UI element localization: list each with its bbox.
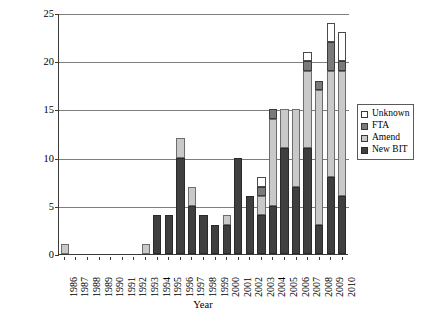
- bar-segment-amend: [303, 71, 311, 148]
- x-tick-slot: 1988: [81, 257, 93, 301]
- chart-figure: 0510152025 Number of Renegotiated BITs 1…: [0, 0, 439, 317]
- bar-segment-newbit: [327, 177, 335, 254]
- stacked-bar[interactable]: [199, 215, 207, 254]
- bar-slot: [140, 14, 152, 254]
- legend-swatch-fta-icon: [361, 123, 368, 130]
- x-tick-slot: 1997: [186, 257, 198, 301]
- x-tick-slot: 1991: [116, 257, 128, 301]
- bar-segment-fta: [257, 187, 265, 197]
- chart-legend: UnknownFTAAmendNew BIT: [357, 104, 414, 160]
- stacked-bar[interactable]: [303, 52, 311, 254]
- x-tick-mark: [296, 257, 297, 260]
- x-tick-slot: 2004: [267, 257, 279, 301]
- y-tick-mark: [55, 255, 59, 256]
- bar-segment-newbit: [292, 187, 300, 254]
- legend-item-unknown[interactable]: Unknown: [361, 108, 409, 120]
- bar-segment-unknown: [303, 52, 311, 62]
- x-tick-slot: 1999: [209, 257, 221, 301]
- legend-swatch-newbit-icon: [361, 147, 368, 154]
- bar-segment-newbit: [257, 215, 265, 254]
- bar-slot: [82, 14, 94, 254]
- bar-segment-newbit: [303, 148, 311, 254]
- legend-item-amend[interactable]: Amend: [361, 132, 409, 144]
- bar-segment-newbit: [188, 206, 196, 254]
- bar-slot: [175, 14, 187, 254]
- stacked-bar[interactable]: [188, 187, 196, 254]
- x-tick-mark: [226, 257, 227, 260]
- x-axis-tick-labels: 1986198719881989199019911992199319941995…: [58, 257, 348, 301]
- x-tick-slot: 2001: [232, 257, 244, 301]
- bar-slot: [59, 14, 71, 254]
- bar-slot: [163, 14, 175, 254]
- bar-slot: [186, 14, 198, 254]
- x-tick-slot: 2008: [313, 257, 325, 301]
- legend-label: Unknown: [372, 109, 409, 119]
- stacked-bar[interactable]: [269, 109, 277, 254]
- bar-segment-newbit: [153, 215, 161, 254]
- x-tick-mark: [145, 257, 146, 260]
- x-tick-slot: 2005: [278, 257, 290, 301]
- bar-segment-amend: [269, 119, 277, 206]
- y-tick-label: 5: [6, 202, 54, 213]
- stacked-bar[interactable]: [327, 23, 335, 254]
- legend-label: Amend: [372, 133, 400, 143]
- bar-segment-amend: [188, 187, 196, 206]
- x-tick-mark: [168, 257, 169, 260]
- x-tick-mark: [180, 257, 181, 260]
- y-tick-label: 25: [6, 9, 54, 20]
- bar-segment-newbit: [176, 158, 184, 254]
- legend-item-newbit[interactable]: New BIT: [361, 144, 409, 156]
- bar-segment-amend: [257, 196, 265, 215]
- stacked-bar[interactable]: [280, 109, 288, 254]
- bar-segment-amend: [223, 215, 231, 225]
- x-tick-slot: 1994: [151, 257, 163, 301]
- x-tick-slot: 2003: [255, 257, 267, 301]
- stacked-bar[interactable]: [176, 138, 184, 254]
- bar-segment-amend: [292, 109, 300, 186]
- bar-segment-newbit: [246, 196, 254, 254]
- stacked-bar[interactable]: [165, 215, 173, 254]
- x-tick-mark: [215, 257, 216, 260]
- bar-segment-newbit: [199, 215, 207, 254]
- bar-segment-amend: [315, 90, 323, 225]
- bar-slot: [244, 14, 256, 254]
- bar-segment-newbit: [234, 158, 242, 254]
- bar-segment-fta: [303, 61, 311, 71]
- x-tick-label: 2010: [346, 277, 357, 297]
- bar-segment-fta: [327, 42, 335, 71]
- stacked-bar[interactable]: [223, 215, 231, 254]
- stacked-bar[interactable]: [142, 244, 150, 254]
- x-tick-slot: 1986: [58, 257, 70, 301]
- bar-slot: [128, 14, 140, 254]
- stacked-bar[interactable]: [292, 109, 300, 254]
- x-tick-mark: [203, 257, 204, 260]
- y-tick-label: 10: [6, 153, 54, 164]
- x-tick-slot: 1992: [128, 257, 140, 301]
- legend-label: FTA: [372, 121, 389, 131]
- stacked-bar[interactable]: [257, 177, 265, 254]
- bar-segment-amend: [327, 71, 335, 177]
- bar-slot: [152, 14, 164, 254]
- bar-segment-amend: [142, 244, 150, 254]
- bar-segment-fta: [338, 61, 346, 71]
- stacked-bar[interactable]: [153, 215, 161, 254]
- legend-label: New BIT: [372, 145, 408, 155]
- stacked-bar[interactable]: [315, 81, 323, 254]
- bar-segment-newbit: [338, 196, 346, 254]
- x-tick-mark: [330, 257, 331, 260]
- x-tick-slot: 2006: [290, 257, 302, 301]
- bar-slot: [105, 14, 117, 254]
- x-tick-mark: [272, 257, 273, 260]
- x-tick-slot: 1996: [174, 257, 186, 301]
- stacked-bar[interactable]: [61, 244, 69, 254]
- bar-slot: [94, 14, 106, 254]
- legend-item-fta[interactable]: FTA: [361, 120, 409, 132]
- stacked-bar[interactable]: [234, 158, 242, 254]
- x-tick-mark: [133, 257, 134, 260]
- y-tick-label: 15: [6, 105, 54, 116]
- stacked-bar[interactable]: [211, 225, 219, 254]
- x-tick-mark: [157, 257, 158, 260]
- stacked-bar[interactable]: [338, 32, 346, 254]
- y-tick-label: 0: [6, 250, 54, 261]
- stacked-bar[interactable]: [246, 196, 254, 254]
